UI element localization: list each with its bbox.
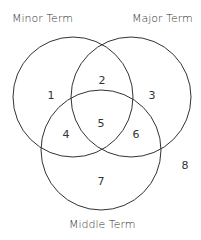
region-1: 1 bbox=[48, 89, 55, 102]
region-5: 5 bbox=[98, 117, 105, 130]
region-3: 3 bbox=[149, 89, 156, 102]
major-term-circle bbox=[71, 37, 191, 157]
region-7: 7 bbox=[98, 175, 105, 188]
region-8: 8 bbox=[182, 159, 189, 172]
middle-term-label: Middle Term bbox=[69, 218, 136, 231]
region-4: 4 bbox=[63, 128, 70, 141]
major-term-label: Major Term bbox=[132, 12, 193, 25]
minor-term-label: Minor Term bbox=[12, 12, 73, 25]
region-6: 6 bbox=[133, 128, 140, 141]
region-2: 2 bbox=[99, 74, 106, 87]
